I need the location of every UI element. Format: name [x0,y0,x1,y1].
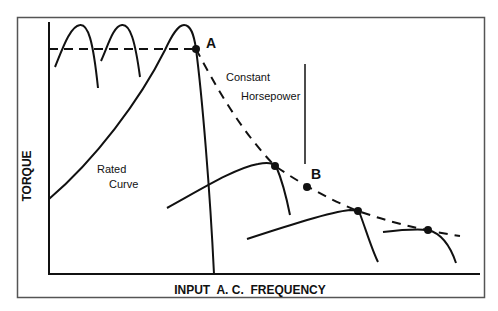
constant-label: Constant [226,71,270,83]
curve-label: Curve [109,178,138,190]
y-axis-title: TORQUE [20,150,34,201]
point-a-label: A [206,35,216,51]
diagram-frame [18,18,485,298]
point-marker [354,207,362,215]
point-b-marker [303,183,311,191]
speed-torque-curve-1 [55,25,98,88]
speed-torque-curve-5 [383,230,456,263]
horsepower-label: Horsepower [241,90,301,102]
torque-frequency-diagram: A B Constant Horsepower Rated Curve INPU… [0,0,498,311]
rated-label: Rated [97,163,126,175]
x-axis-title: INPUT A. C. FREQUENCY [174,283,326,297]
speed-torque-curve-3 [167,163,290,215]
point-marker [271,162,279,170]
speed-torque-curve-2 [101,25,140,77]
rated-curve [49,25,214,274]
point-marker [424,226,432,234]
speed-torque-curve-4 [247,210,378,262]
point-a-marker [192,45,200,53]
point-b-label: B [311,166,321,182]
